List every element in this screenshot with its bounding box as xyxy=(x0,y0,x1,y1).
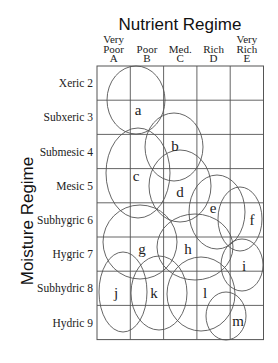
grid xyxy=(97,66,264,340)
y-axis-title: Moisture Regime xyxy=(18,157,37,286)
edatopic-grid-diagram: Nutrient Regime Moisture Regime VeryPoor… xyxy=(0,0,278,363)
ellipse-label-c: c xyxy=(133,168,140,184)
row-label: Subhydric 8 xyxy=(37,282,93,295)
ellipse-label-b: b xyxy=(171,138,179,154)
chart-title: Nutrient Regime xyxy=(119,15,242,34)
row-labels: Xeric 2Subxeric 3Submesic 4Mesic 5Subhyg… xyxy=(37,77,93,329)
ellipse-label-m: m xyxy=(232,313,244,329)
row-label: Submesic 4 xyxy=(40,146,94,158)
ellipse-label-e: e xyxy=(210,200,217,216)
ellipse-label-j: j xyxy=(113,285,118,301)
column-label: C xyxy=(177,52,184,64)
column-label: D xyxy=(210,52,218,64)
ellipse-label-i: i xyxy=(242,258,246,274)
column-labels: VeryPoorAPoorBMed.CRichDVeryRichE xyxy=(103,33,257,64)
row-label: Xeric 2 xyxy=(59,77,93,89)
ellipse-label-k: k xyxy=(150,285,158,301)
ellipse-label-d: d xyxy=(176,184,184,200)
row-label: Subhygric 6 xyxy=(37,214,93,227)
ellipse-label-h: h xyxy=(184,241,192,257)
ellipse-f xyxy=(218,187,262,251)
ellipse-label-f: f xyxy=(250,212,255,228)
ellipse-e xyxy=(189,175,245,249)
column-label: B xyxy=(143,52,150,64)
row-label: Mesic 5 xyxy=(56,180,93,192)
ellipse-label-l: l xyxy=(203,285,207,301)
ellipse-label-a: a xyxy=(135,102,142,118)
ellipse-l xyxy=(167,257,235,331)
row-label: Hydric 9 xyxy=(52,317,93,330)
ellipse-label-g: g xyxy=(138,241,146,257)
row-label: Hygric 7 xyxy=(52,248,93,261)
ellipse-k xyxy=(131,256,187,330)
column-label: E xyxy=(243,52,250,64)
column-label: A xyxy=(110,52,118,64)
row-label: Subxeric 3 xyxy=(43,111,93,123)
